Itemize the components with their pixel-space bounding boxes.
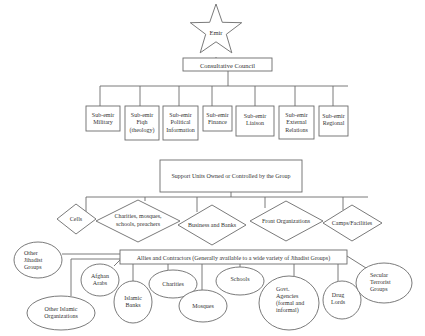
- ally-islamic-banks: Islamic Banks: [114, 281, 152, 323]
- svg-text:Sub-emir: Sub-emir: [322, 113, 344, 119]
- council-label: Consultative Council: [200, 62, 255, 69]
- allies-contractors-node: Allies and Contractors (Generally availa…: [120, 250, 347, 264]
- svg-text:Groups: Groups: [370, 286, 388, 292]
- svg-text:Finance: Finance: [208, 119, 227, 125]
- ally-govt-agencies: Govt. Agencies (formal and informal): [259, 276, 319, 330]
- ally-afghan-arabs: Afghan Arabs: [81, 264, 119, 296]
- svg-text:Terrorist: Terrorist: [370, 279, 391, 285]
- svg-text:Other Islamic: Other Islamic: [45, 306, 78, 312]
- support-unit-camps-facilities: Camps/Facilities: [323, 205, 382, 241]
- consultative-council-node: Consultative Council: [183, 58, 272, 71]
- svg-text:Islamic: Islamic: [124, 295, 142, 301]
- sub-emir-row: Sub-emir Military Sub-emir Fiqh (theolog…: [86, 106, 348, 140]
- svg-text:Sub-emir: Sub-emir: [169, 112, 191, 118]
- svg-text:Mosques: Mosques: [192, 303, 214, 309]
- support-units-row: Cells Charities, mosques, schools, preac…: [57, 200, 382, 245]
- svg-text:Charities, mosques,: Charities, mosques,: [114, 213, 162, 219]
- svg-text:Govt.: Govt.: [276, 286, 290, 292]
- svg-text:Sub-emir: Sub-emir: [92, 112, 114, 118]
- svg-text:(formal and: (formal and: [276, 300, 304, 307]
- svg-text:Charities: Charities: [162, 281, 184, 287]
- svg-text:Drug: Drug: [332, 292, 344, 298]
- emir-label: Emir: [210, 29, 224, 36]
- svg-text:Sub-emir: Sub-emir: [244, 113, 266, 119]
- svg-text:Schools: Schools: [230, 276, 250, 282]
- ally-drug-lords: Drug Lords: [323, 281, 361, 319]
- ally-other-islamic-organizations: Other Islamic Organizations: [27, 296, 95, 330]
- svg-text:Fiqh: Fiqh: [136, 119, 147, 125]
- svg-text:Political: Political: [171, 119, 191, 125]
- ally-secular-terrorist-groups: Secular Terrorist Groups: [356, 263, 412, 303]
- svg-text:Front Organizations: Front Organizations: [262, 218, 311, 224]
- emir-node: Emir: [190, 4, 241, 53]
- svg-text:Lords: Lords: [331, 299, 346, 305]
- sub-emir-external-relations: Sub-emir External Relations: [279, 106, 314, 139]
- ally-other-jihadist-groups: Other Jihadist Groups: [14, 242, 62, 278]
- svg-text:Sub-emir: Sub-emir: [131, 112, 153, 118]
- svg-text:Arabs: Arabs: [93, 280, 108, 286]
- support-unit-charities: Charities, mosques, schools, preachers: [96, 200, 180, 242]
- support-unit-business-banks: Business and Banks: [178, 205, 246, 245]
- svg-text:(theology): (theology): [130, 127, 155, 134]
- svg-text:Liaison: Liaison: [246, 120, 264, 126]
- sub-emir-liaison: Sub-emir Liaison: [236, 106, 274, 136]
- support-unit-front-organizations: Front Organizations: [250, 201, 323, 241]
- ally-schools: Schools: [216, 267, 264, 295]
- ally-mosques: Mosques: [179, 290, 227, 322]
- svg-text:Sub-emir: Sub-emir: [206, 112, 228, 118]
- svg-text:Cells: Cells: [70, 216, 83, 222]
- sub-emir-fiqh: Sub-emir Fiqh (theology): [125, 106, 159, 140]
- svg-text:Information: Information: [166, 127, 195, 133]
- sub-emir-military: Sub-emir Military: [86, 106, 120, 131]
- svg-text:Military: Military: [93, 119, 113, 125]
- support-unit-cells: Cells: [57, 204, 96, 234]
- svg-text:Camps/Facilities: Camps/Facilities: [332, 220, 373, 226]
- svg-text:Other: Other: [24, 250, 38, 256]
- sub-emir-regional: Sub-emir Regional: [319, 106, 348, 136]
- allies-label: Allies and Contractors (Generally availa…: [137, 255, 330, 262]
- svg-text:informal): informal): [276, 307, 299, 314]
- support-units-node: Support Units Owned or Controlled by the…: [160, 160, 302, 192]
- svg-text:Groups: Groups: [24, 264, 42, 270]
- svg-text:Banks: Banks: [126, 302, 142, 308]
- sub-emir-finance: Sub-emir Finance: [203, 106, 232, 131]
- support-label: Support Units Owned or Controlled by the…: [171, 173, 290, 179]
- svg-text:Agencies: Agencies: [276, 293, 299, 299]
- org-chart-diagram: Emir Consultative Council Sub-emir Milit…: [0, 0, 425, 336]
- svg-text:Regional: Regional: [323, 120, 345, 126]
- svg-text:Afghan: Afghan: [91, 273, 109, 279]
- svg-text:Jihadist: Jihadist: [24, 257, 43, 263]
- svg-text:Relations: Relations: [285, 127, 308, 133]
- svg-text:Organizations: Organizations: [44, 313, 78, 319]
- svg-text:Sub-emir: Sub-emir: [285, 112, 307, 118]
- svg-text:Secular: Secular: [370, 272, 388, 278]
- svg-text:External: External: [286, 119, 307, 125]
- svg-text:Business and Banks: Business and Banks: [188, 222, 237, 228]
- sub-emir-political: Sub-emir Political Information: [163, 106, 198, 140]
- svg-text:schools, preachers: schools, preachers: [116, 221, 161, 227]
